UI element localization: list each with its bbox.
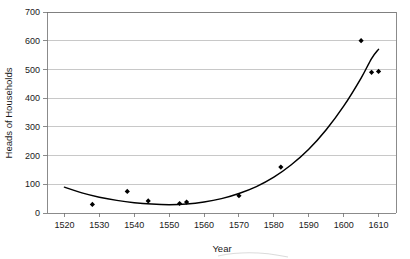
x-tick-label-1580: 1580 xyxy=(264,220,284,230)
chart-container: 0100200300400500600700 15201530154015501… xyxy=(0,0,410,259)
x-tick-label-1600: 1600 xyxy=(334,220,354,230)
x-tick-label-1540: 1540 xyxy=(124,220,144,230)
y-axis-title: Heads of Households xyxy=(3,67,14,158)
y-tick-label-600: 600 xyxy=(25,36,40,46)
y-tick-label-500: 500 xyxy=(25,65,40,75)
x-axis-title: Year xyxy=(212,243,231,254)
x-tick-label-1530: 1530 xyxy=(89,220,109,230)
y-tick-label-0: 0 xyxy=(35,208,40,218)
y-tick-label-300: 300 xyxy=(25,122,40,132)
scatter-chart: 0100200300400500600700 15201530154015501… xyxy=(0,0,410,259)
y-tick-label-200: 200 xyxy=(25,151,40,161)
x-tick-label-1550: 1550 xyxy=(159,220,179,230)
y-tick-label-100: 100 xyxy=(25,179,40,189)
y-tick-label-400: 400 xyxy=(25,93,40,103)
y-tick-label-700: 700 xyxy=(25,7,40,17)
x-tick-label-1610: 1610 xyxy=(369,220,389,230)
x-tick-label-1570: 1570 xyxy=(229,220,249,230)
x-tick-label-1560: 1560 xyxy=(194,220,214,230)
x-tick-label-1520: 1520 xyxy=(54,220,74,230)
x-tick-label-1590: 1590 xyxy=(299,220,319,230)
